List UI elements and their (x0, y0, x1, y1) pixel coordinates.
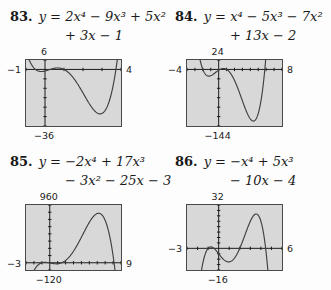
ymin-label: −16 (208, 274, 228, 285)
textbook-exercise-page: 83.y = 2x⁴ − 9x³ + 5x² + 3x − 1 6 −1 4 −… (0, 0, 331, 290)
ymin-label: −36 (34, 130, 54, 141)
problem-number: 86. (175, 154, 198, 169)
problem-number: 85. (10, 154, 33, 169)
xmax-label: 9 (126, 257, 132, 268)
problem-number: 84. (175, 9, 198, 24)
xmin-label: −3 (168, 243, 182, 254)
calculator-graph: 32 −3 6 −16 (186, 204, 283, 271)
equation-line-2: − 3x² − 25x − 3 (10, 171, 165, 190)
xmax-label: 6 (287, 243, 293, 254)
equation-line-2: + 13x − 2 (175, 26, 331, 45)
plot-region (25, 204, 122, 271)
equation-block: 83.y = 2x⁴ − 9x³ + 5x² + 3x − 1 (0, 7, 165, 45)
xmax-label: 8 (287, 64, 293, 75)
ymax-label: 32 (212, 191, 224, 202)
equation-line-2: + 3x − 1 (10, 26, 165, 45)
xmin-label: −1 (7, 64, 21, 75)
equation-line-1: 86.y = −x⁴ + 5x³ (175, 152, 331, 171)
plot-region (186, 204, 283, 271)
problem-86: 86.y = −x⁴ + 5x³ − 10x − 4 32 −3 6 −16 (165, 145, 331, 290)
plot-region (186, 59, 283, 127)
equation-text: y = 2x⁴ − 9x³ + 5x² (39, 9, 166, 24)
xmax-label: 4 (126, 64, 132, 75)
calculator-graph: 6 −1 4 −36 (25, 59, 122, 127)
equation-line-1: 83.y = 2x⁴ − 9x³ + 5x² (10, 7, 165, 26)
xmin-label: −3 (7, 257, 21, 268)
ymax-label: 24 (212, 46, 224, 57)
equation-text: y = −2x⁴ + 17x³ (39, 154, 145, 169)
equation-text: y = x⁴ − 5x³ − 7x² (204, 9, 323, 24)
ymax-label: 960 (40, 191, 58, 202)
graph-row: 960 −3 9 −120 (25, 190, 165, 275)
equation-line-2: − 10x − 4 (175, 171, 331, 190)
problem-85: 85.y = −2x⁴ + 17x³ − 3x² − 25x − 3 960 −… (0, 145, 165, 290)
calculator-graph: 960 −3 9 −120 (25, 204, 122, 271)
ymax-label: 6 (41, 46, 47, 57)
plot-region (25, 59, 122, 127)
equation-text: y = −x⁴ + 5x³ (204, 154, 294, 169)
equation-line-1: 84.y = x⁴ − 5x³ − 7x² (175, 7, 331, 26)
equation-block: 85.y = −2x⁴ + 17x³ − 3x² − 25x − 3 (0, 152, 165, 190)
equation-block: 86.y = −x⁴ + 5x³ − 10x − 4 (165, 152, 331, 190)
problem-number: 83. (10, 9, 33, 24)
equation-line-1: 85.y = −2x⁴ + 17x³ (10, 152, 165, 171)
problem-84: 84.y = x⁴ − 5x³ − 7x² + 13x − 2 24 −4 8 … (165, 0, 331, 145)
ymin-label: −120 (36, 274, 62, 285)
graph-row: 6 −1 4 −36 (25, 45, 165, 131)
calculator-graph: 24 −4 8 −144 (186, 59, 283, 127)
graph-row: 32 −3 6 −16 (186, 190, 331, 275)
ymin-label: −144 (205, 130, 231, 141)
xmin-label: −4 (168, 64, 182, 75)
problem-83: 83.y = 2x⁴ − 9x³ + 5x² + 3x − 1 6 −1 4 −… (0, 0, 165, 145)
equation-block: 84.y = x⁴ − 5x³ − 7x² + 13x − 2 (165, 7, 331, 45)
graph-row: 24 −4 8 −144 (186, 45, 331, 131)
